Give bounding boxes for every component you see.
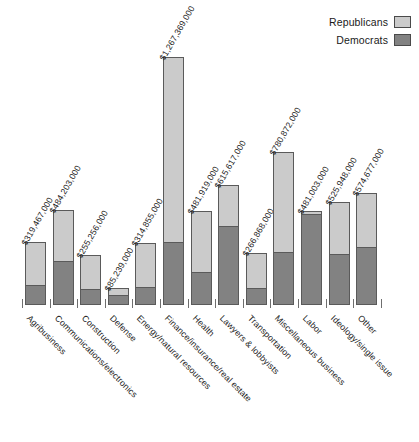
axis-tick [326,299,327,308]
bar-segment-republicans [54,211,73,263]
bar-value-label: $1,267,369,000 [157,4,196,62]
bar-segment-republicans [330,203,349,255]
axis-tick [22,299,23,308]
bar-energy-natural-resources [135,243,156,305]
bar-value-label: $266,868,000 [240,206,276,258]
bar-labor [301,211,322,305]
bar-segment-democrats [81,289,100,304]
bar-segment-democrats [54,261,73,304]
bar-other [356,193,377,305]
bar-segment-republicans [164,58,183,244]
category-label: Other [356,313,379,336]
bar-segment-democrats [109,295,128,304]
bar-finance-insurance-real-estate [163,57,184,305]
bar-value-label: $525,948,000 [323,156,359,208]
axis-tick [77,299,78,308]
bar-segment-republicans [81,256,100,291]
bar-value-label: $574,677,000 [351,146,387,198]
bar-segment-democrats [357,247,376,304]
axis-tick [50,299,51,308]
bar-segment-republicans [247,254,266,291]
bar-segment-democrats [219,226,238,304]
bar-ideology-single-issue [329,202,350,305]
bar-segment-republicans [26,243,45,286]
bar-segment-democrats [274,252,293,304]
plot-area: $319,467,000Agribusiness$484,203,000Comm… [0,0,419,442]
axis-tick [132,299,133,308]
bar-value-label: $484,203,000 [47,164,83,216]
axis-tick [215,299,216,308]
category-label: Health [191,313,216,338]
bar-value-label: $85,239,000 [102,246,135,293]
bar-segment-democrats [330,254,349,304]
bar-value-label: $481,919,000 [185,164,221,216]
bar-value-label: $314,855,000 [130,197,166,249]
bar-value-label: $255,256,000 [75,208,111,260]
bar-segment-republicans [219,186,238,228]
axis-tick [353,299,354,308]
axis-tick [188,299,189,308]
axis-tick [381,299,382,308]
bar-segment-republicans [357,194,376,249]
axis-tick [105,299,106,308]
bar-segment-democrats [164,242,183,304]
axis-tick [298,299,299,308]
bar-lawyers-lobbyists [218,185,239,305]
bar-value-label: $615,617,000 [213,138,249,190]
bar-segment-democrats [136,287,155,304]
bar-segment-republicans [192,212,211,274]
bar-segment-democrats [26,285,45,304]
bar-value-label: $481,003,000 [295,164,331,216]
stacked-bar-chart: Republicans Democrats $319,467,000Agribu… [0,0,419,442]
bar-construction [80,255,101,305]
bar-communications-electronics [53,210,74,305]
bar-segment-republicans [274,153,293,254]
bar-segment-republicans [136,244,155,289]
category-label: Labor [301,313,324,336]
bar-segment-democrats [302,214,321,304]
bar-value-label: $780,872,000 [268,106,304,158]
bar-transportation [246,253,267,305]
axis-tick [243,299,244,308]
bar-miscellaneous-business [273,152,294,305]
bar-agribusiness [25,242,46,305]
axis-tick [160,299,161,308]
bar-segment-democrats [247,288,266,304]
bar-health [191,211,212,305]
axis-tick [270,299,271,308]
bar-segment-democrats [192,272,211,304]
